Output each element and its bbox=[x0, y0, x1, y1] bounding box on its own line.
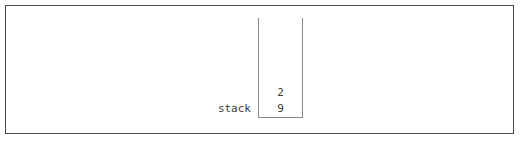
stack-figure: 2 9 bbox=[258, 18, 303, 118]
stack-container: 2 9 bbox=[258, 18, 303, 118]
stack-cell: 2 bbox=[259, 85, 302, 101]
stack-label: stack bbox=[150, 101, 251, 117]
diagram-canvas: stack 2 9 bbox=[0, 0, 520, 141]
stack-cell: 9 bbox=[259, 101, 302, 117]
